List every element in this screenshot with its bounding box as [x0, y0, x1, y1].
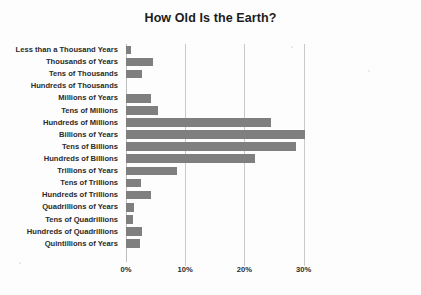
- y-axis-label: Hundreds of Trillions: [0, 189, 122, 201]
- y-axis-label: Billions of Years: [0, 129, 122, 141]
- bar-row: [126, 68, 392, 80]
- bar-row: [126, 238, 392, 250]
- y-axis-label: Hundreds of Quadrillions: [0, 226, 122, 238]
- bar-row: [126, 129, 392, 141]
- y-axis-label: Trillions of Years: [0, 165, 122, 177]
- x-axis-tickmark: [244, 262, 245, 266]
- bar-row: [126, 214, 392, 226]
- bar: [126, 191, 151, 200]
- bar-row: [126, 201, 392, 213]
- x-axis-tickmark: [185, 262, 186, 266]
- y-axis-label: Thousands of Years: [0, 56, 122, 68]
- bar-row: [126, 153, 392, 165]
- y-axis-label: Tens of Thousands: [0, 68, 122, 80]
- scan-speck-2: [368, 70, 370, 72]
- bar-row: [126, 105, 392, 117]
- bar-row: [126, 226, 392, 238]
- y-axis-label: Tens of Millions: [0, 105, 122, 117]
- chart-title: How Old Is the Earth?: [0, 11, 421, 25]
- bar: [126, 215, 133, 224]
- bar: [126, 167, 177, 176]
- x-axis-tick-label: 30%: [296, 265, 311, 274]
- y-axis-label: Hundreds of Billions: [0, 153, 122, 165]
- y-axis-label: Tens of Trillions: [0, 177, 122, 189]
- bar-row: [126, 56, 392, 68]
- y-axis-label: Less than a Thousand Years: [0, 44, 122, 56]
- y-axis-label: Millions of Years: [0, 92, 122, 104]
- y-axis-category-labels: Less than a Thousand YearsThousands of Y…: [0, 44, 122, 262]
- y-axis-label: Hundreds of Millions: [0, 117, 122, 129]
- bar: [126, 239, 140, 248]
- plot-area: [126, 44, 392, 262]
- bar-row: [126, 117, 392, 129]
- bar-series: [126, 44, 392, 262]
- scan-speck-3: [19, 262, 21, 264]
- x-axis-tickmark: [304, 262, 305, 266]
- bar: [126, 94, 151, 103]
- bar-row: [126, 92, 392, 104]
- y-axis-label: Tens of Quadrillions: [0, 214, 122, 226]
- bar-row: [126, 189, 392, 201]
- bar: [126, 179, 141, 188]
- x-axis-tick-labels: 0%10%20%30%: [0, 265, 421, 279]
- bar: [126, 142, 296, 151]
- bar-row: [126, 165, 392, 177]
- bar: [126, 106, 158, 115]
- bar: [126, 130, 305, 139]
- x-axis-tick-label: 20%: [237, 265, 252, 274]
- bar: [126, 58, 153, 67]
- y-axis-label: Tens of Billions: [0, 141, 122, 153]
- bar-row: [126, 141, 392, 153]
- bar: [126, 46, 131, 55]
- y-axis-label: Quadrillions of Years: [0, 201, 122, 213]
- bar: [126, 227, 142, 236]
- scan-speck-1: [291, 46, 293, 48]
- bar: [126, 118, 271, 127]
- x-axis-tick-label: 0%: [121, 265, 132, 274]
- x-axis-tick-label: 10%: [178, 265, 193, 274]
- bar-row: [126, 44, 392, 56]
- bar-row: [126, 177, 392, 189]
- bar-row: [126, 80, 392, 92]
- bar: [126, 70, 142, 79]
- y-axis-label: Quintillions of Years: [0, 238, 122, 250]
- y-axis-label: Hundreds of Thousands: [0, 80, 122, 92]
- bar: [126, 203, 134, 212]
- bar: [126, 154, 255, 163]
- chart-container: How Old Is the Earth? Less than a Thousa…: [0, 0, 421, 295]
